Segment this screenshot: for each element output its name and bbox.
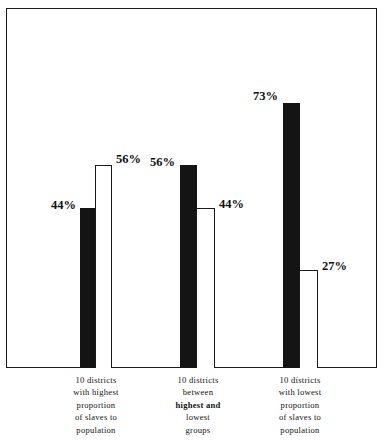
bar-group2-black [180,165,197,368]
bar-label-group3-black: 73% [253,90,278,103]
bar-label-group1-black: 44% [51,199,76,212]
bar-group2-white [196,208,215,368]
caption-group3-line2: with lowest [240,386,360,398]
bar-group1-white [95,165,112,368]
caption-group3-line1: 10 districts [240,374,360,386]
caption-group3-line5: population [240,424,360,436]
bar-label-group2-white: 44% [219,198,244,211]
bar-group1-black [80,208,96,368]
caption-group3: 10 districts with lowest proportion of s… [240,374,360,436]
bar-label-group2-black: 56% [150,156,175,169]
caption-group3-line4: of slaves to [240,411,360,423]
bar-label-group3-white: 27% [322,260,347,273]
caption-group3-line3: proportion [240,399,360,411]
bar-group3-white [299,270,318,368]
bar-chart-figure: 44% 56% 56% 44% 73% 27% 10 districts wit… [0,0,391,444]
bar-group3-black [283,103,300,368]
bar-label-group1-white: 56% [116,153,141,166]
